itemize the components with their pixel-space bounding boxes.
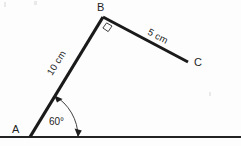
- vertex-label-a: A: [12, 123, 20, 135]
- scan-speck: [209, 92, 211, 96]
- right-angle-marker: [103, 23, 112, 32]
- segment-ab: [30, 17, 103, 137]
- vertex-label-c: C: [194, 56, 202, 68]
- scan-speck: [34, 1, 37, 5]
- scan-speck: [4, 2, 6, 7]
- geometry-diagram-canvas: A B C 10 cm 5 cm 60°: [0, 0, 241, 146]
- vertex-label-b: B: [97, 1, 105, 13]
- angle-arc-arrowhead-ab: [54, 96, 62, 103]
- segment-bc: [103, 17, 188, 62]
- angle-label-60: 60°: [49, 116, 64, 127]
- length-label-ab: 10 cm: [44, 48, 68, 77]
- angle-arc-arrowhead-baseline: [75, 129, 82, 137]
- geometry-figure: A B C 10 cm 5 cm 60°: [0, 0, 241, 146]
